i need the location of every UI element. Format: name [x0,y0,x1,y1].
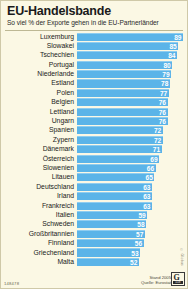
chart-header: EU-Handelsbande So viel % der Exporte ge… [1,1,187,28]
bar [77,33,183,41]
bar-value-label: 65 [146,174,153,181]
bar-value-label: 58 [137,221,144,228]
bar [77,202,152,210]
category-label: Slowakei [3,42,77,50]
bar-track: 69 [77,154,183,163]
bar-value-label: 52 [130,258,137,265]
chart-row: Luxemburg89 [3,32,183,41]
category-label: Luxemburg [3,33,77,41]
bar [77,70,171,78]
bar-value-label: 53 [131,249,138,256]
page-title: EU-Handelsbande [7,5,181,18]
source-note: Stand 2005 Quelle: Eurostat [141,275,171,285]
category-label: Slowenien [3,164,77,172]
bar-value-label: 56 [135,240,142,247]
chart-row: Dänemark71 [3,145,183,154]
bar [77,108,168,116]
category-label: Estland [3,79,77,87]
bar [77,126,163,134]
bar-value-label: 71 [153,146,160,153]
bar-value-label: 57 [136,230,143,237]
bar-track: 76 [77,117,183,126]
bar-track: 76 [77,107,183,116]
chart-row: Niederlande79 [3,70,183,79]
chart-row: Slowenien66 [3,163,183,172]
bar-track: 78 [77,79,183,88]
bar-value-label: 63 [143,183,150,190]
chart-footer: 148478 Stand 2005 Quelle: Eurostat G 118 [1,270,187,288]
copyright-sidemark: © Globus [180,248,184,266]
bar-track: 89 [77,32,183,41]
bar-value-label: 79 [162,71,169,78]
chart-row: Finnland56 [3,239,183,248]
bar [77,230,145,238]
bar-track: 79 [77,70,183,79]
bar-value-label: 78 [161,80,168,87]
bar [77,239,144,247]
graphic-id-code: 148478 [4,281,19,286]
bar-value-label: 72 [154,127,161,134]
category-label: Griechenland [3,249,77,257]
chart-row: Ungarn76 [3,117,183,126]
category-label: Finnland [3,239,77,247]
chart-row: Irland63 [3,192,183,201]
category-label: Tschechien [3,51,77,59]
bar [77,192,152,200]
bar [77,173,154,181]
chart-row: Polen77 [3,88,183,97]
bar [77,117,168,125]
chart-row: Belgien76 [3,98,183,107]
chart-row: Deutschland63 [3,182,183,191]
bar-value-label: 76 [159,118,166,125]
bar [77,211,147,219]
category-label: Niederlande [3,70,77,78]
bar-value-label: 69 [150,155,157,162]
bar [77,220,146,228]
bar [77,164,156,172]
bar-track: 56 [77,239,183,248]
chart-row: Slowakei85 [3,41,183,50]
bar-track: 65 [77,173,183,182]
category-label: Schweden [3,220,77,228]
chart-row: Griechenland53 [3,248,183,257]
bar [77,183,152,191]
bar [77,155,159,163]
infographic-container: EU-Handelsbande So viel % der Exporte ge… [0,0,188,289]
bar [77,98,168,106]
category-label: Lettland [3,108,77,116]
header-divider [5,30,183,31]
bar-track: 72 [77,126,183,135]
chart-row: Spanien72 [3,126,183,135]
source-origin: Quelle: Eurostat [141,280,171,285]
bar-track: 52 [77,257,183,266]
bar-value-label: 66 [147,164,154,171]
bar-value-label: 89 [174,33,181,40]
category-label: Italien [3,211,77,219]
bar-value-label: 72 [154,136,161,143]
category-label: Österreich [3,155,77,163]
category-label: Belgien [3,98,77,106]
logo-tag: 118 [173,281,184,284]
bar-track: 59 [77,210,183,219]
chart-row: Estland78 [3,79,183,88]
bar-track: 53 [77,248,183,257]
chart-subtitle: So viel % der Exporte gehen in die EU-Pa… [7,19,181,27]
bar-track: 63 [77,201,183,210]
category-label: Irland [3,192,77,200]
chart-row: Lettland76 [3,107,183,116]
bar [77,79,170,87]
bar-track: 63 [77,182,183,191]
bar-value-label: 85 [169,42,176,49]
chart-row: Portugal80 [3,60,183,69]
chart-row: Schweden58 [3,220,183,229]
bar-value-label: 63 [143,202,150,209]
bar [77,61,172,69]
category-label: Großbritannien [3,230,77,238]
bar-track: 57 [77,229,183,238]
bar-track: 85 [77,41,183,50]
bar-value-label: 63 [143,193,150,200]
category-label: Frankreich [3,202,77,210]
bar-track: 72 [77,135,183,144]
bar-track: 76 [77,98,183,107]
chart-row: Litauen65 [3,173,183,182]
